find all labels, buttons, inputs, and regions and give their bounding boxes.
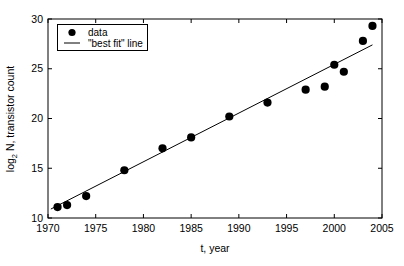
y-axis-label: log2 N, transistor count — [4, 66, 19, 172]
y-axis-tick-labels: 1015202530 — [31, 13, 43, 224]
y-tick-label: 20 — [31, 112, 43, 124]
x-tick-label: 1970 — [36, 222, 60, 234]
data-point-marker — [340, 68, 348, 76]
data-point-marker — [321, 83, 329, 91]
x-tick-label: 1990 — [227, 222, 251, 234]
y-tick-label: 15 — [31, 162, 43, 174]
figure-container: 19701975198019851990199520002005 1015202… — [0, 0, 404, 266]
y-tick-label: 10 — [31, 212, 43, 224]
x-tick-label: 1975 — [84, 222, 108, 234]
x-tick-label: 2000 — [323, 222, 347, 234]
data-point-marker — [225, 112, 233, 120]
chart-legend: data "best fit" line — [58, 25, 148, 51]
y-axis-label-rest: N, transistor count — [4, 66, 16, 154]
data-point-marker — [63, 201, 71, 209]
data-point-marker — [368, 22, 376, 30]
legend-label-best-fit-line: "best fit" line — [88, 38, 143, 49]
data-point-marker — [302, 86, 310, 94]
data-point-marker — [359, 37, 367, 45]
x-tick-label: 1985 — [179, 222, 203, 234]
x-tick-label: 2005 — [370, 222, 394, 234]
data-point-marker — [263, 98, 271, 106]
transistor-count-scatter-chart: 19701975198019851990199520002005 1015202… — [0, 0, 404, 266]
legend-marker-data-icon — [68, 29, 75, 36]
best-fit-line — [51, 45, 373, 209]
svg-text:log2 N, transistor count: log2 N, transistor count — [4, 66, 19, 172]
data-point-marker — [82, 192, 90, 200]
x-tick-label: 1995 — [275, 222, 299, 234]
data-point-marker — [187, 133, 195, 141]
legend-label-data: data — [88, 27, 108, 38]
data-point-marker — [330, 61, 338, 69]
y-axis-label-base: log — [4, 158, 16, 172]
y-tick-label: 30 — [31, 13, 43, 25]
y-tick-label: 25 — [31, 62, 43, 74]
data-point-marker — [53, 203, 61, 211]
data-point-marker — [158, 144, 166, 152]
x-axis-label: t, year — [200, 242, 230, 254]
x-axis-tick-labels: 19701975198019851990199520002005 — [36, 222, 394, 234]
data-point-marker — [120, 166, 128, 174]
x-tick-label: 1980 — [132, 222, 156, 234]
